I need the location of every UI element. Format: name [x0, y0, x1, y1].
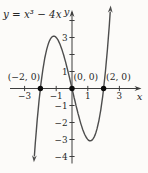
graph-canvas: y = x³ − 4x y x −3−11331−1−2−3−4(−2, 0)(…: [0, 0, 148, 173]
x-axis-label: x: [137, 91, 143, 102]
plot-elements: −3−11331−1−2−3−4(−2, 0)(0, 0)(2, 0): [8, 6, 142, 164]
intercept-dot: [101, 86, 106, 91]
y-axis-label: y: [63, 6, 70, 17]
x-tick-label: 3: [117, 91, 123, 101]
y-tick-label: −3: [55, 135, 68, 145]
y-tick-label: −2: [55, 118, 68, 128]
x-tick-label: −1: [50, 91, 63, 101]
y-tick-label: 3: [62, 33, 68, 43]
x-tick-label: 1: [85, 91, 91, 101]
y-tick-label: −4: [55, 152, 68, 162]
point-label: (2, 0): [106, 71, 131, 82]
figure-page: y = x³ − 4x y x −3−11331−1−2−3−4(−2, 0)(…: [0, 0, 148, 173]
x-tick-label: −3: [18, 91, 31, 101]
intercept-dot: [69, 86, 74, 91]
equation-label: y = x³ − 4x: [2, 8, 62, 20]
point-label: (0, 0): [74, 71, 99, 82]
intercept-dot: [38, 86, 43, 91]
point-label: (−2, 0): [8, 71, 40, 82]
y-tick-label: −1: [55, 101, 68, 111]
